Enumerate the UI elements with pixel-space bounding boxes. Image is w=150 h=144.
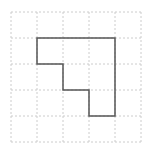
grid-lines	[11, 12, 141, 142]
staircase-polygon	[37, 38, 115, 116]
grid-diagram	[0, 0, 150, 144]
